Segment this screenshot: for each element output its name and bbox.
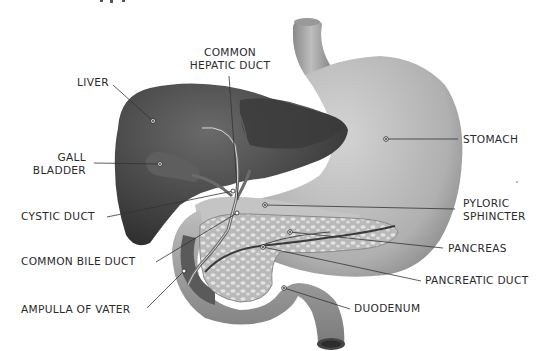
anatomy-diagram: COMMON HEPATIC DUCT LIVER GALL BLADDER C…: [0, 0, 559, 351]
label-gall-bladder-line2: BLADDER: [26, 164, 86, 177]
label-liver: LIVER: [77, 76, 109, 89]
label-pyloric-sphincter-line1: PYLORIC: [463, 197, 526, 210]
label-gall-bladder-line1: GALL: [26, 151, 86, 164]
label-cystic-duct: CYSTIC DUCT: [21, 210, 95, 223]
label-duodenum: DUODENUM: [354, 302, 420, 315]
label-common-hepatic-duct-line2: HEPATIC DUCT: [175, 59, 285, 72]
label-stomach: STOMACH: [463, 133, 518, 146]
label-pancreatic-duct: PANCREATIC DUCT: [425, 274, 528, 287]
label-common-hepatic-duct-line1: COMMON: [175, 46, 285, 59]
label-common-bile-duct: COMMON BILE DUCT: [21, 255, 136, 268]
leader-ampulla: [147, 271, 184, 308]
label-pyloric-sphincter: PYLORIC SPHINCTER: [463, 197, 526, 223]
label-pancreas: PANCREAS: [448, 242, 507, 255]
label-pyloric-sphincter-line2: SPHINCTER: [463, 210, 526, 223]
label-common-hepatic-duct: COMMON HEPATIC DUCT: [175, 46, 285, 72]
cropped-text-remnant: [100, 0, 125, 3]
stray-dot: [516, 181, 518, 183]
label-gall-bladder: GALL BLADDER: [26, 151, 86, 177]
label-ampulla-of-vater: AMPULLA OF VATER: [21, 303, 130, 316]
